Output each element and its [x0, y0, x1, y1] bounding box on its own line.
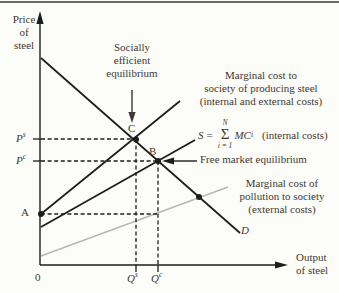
marginal-pollution-annotation: Marginal cost of pollution to society (e…	[225, 177, 339, 216]
social-marginal-cost-curve	[41, 101, 180, 214]
marginal-social-cost-annotation: Marginal cost to society of producing st…	[182, 69, 339, 108]
demand-curve-label: D	[241, 224, 249, 237]
point-c-dot	[133, 137, 139, 143]
ps-label: Ps	[16, 132, 26, 145]
point-b-dot	[155, 158, 161, 164]
point-b-label: B	[149, 145, 156, 158]
x-axis-title: Output of steel	[296, 251, 328, 277]
summation: N Σ i = 1	[218, 119, 233, 150]
externality-diagram: Price of steel Output of steel 0 Ps Pc Q…	[0, 0, 339, 293]
y-axis-title: Price of steel	[4, 13, 44, 52]
point-a-dot	[38, 211, 44, 217]
supply-formula: S = N Σ i = 1 MCi (internal costs)	[198, 119, 328, 150]
sigma-symbol: Σ	[221, 127, 230, 142]
free-market-annotation: Free market equilibrium	[200, 153, 307, 166]
qc-label: Qc	[151, 272, 162, 285]
point-a-label: A	[21, 206, 29, 219]
x-axis-arrow-icon	[275, 261, 288, 268]
demand-external-intersection-dot	[196, 194, 202, 200]
origin-label: 0	[35, 271, 41, 284]
qs-label: Qs	[127, 272, 138, 285]
socially-efficient-annotation: Socially efficient equilibrium	[95, 41, 169, 80]
point-c-label: C	[128, 122, 135, 135]
pc-label: Pc	[16, 154, 26, 167]
